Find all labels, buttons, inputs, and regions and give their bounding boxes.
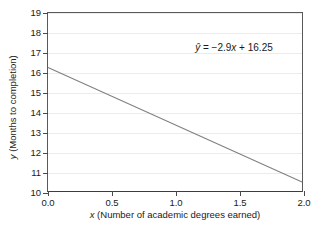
plot-area: 10111213141516171819 0.00.51.01.52.0 ŷ =… — [47, 12, 303, 192]
x-tick-mark — [304, 191, 305, 196]
y-tick-label: 16 — [30, 68, 41, 78]
y-tick-label: 11 — [31, 168, 41, 178]
equation-equals: = −2.9 — [200, 42, 231, 53]
y-axis-title-text: (Months to completion) — [7, 55, 18, 154]
x-tick-label: 0.0 — [41, 198, 54, 208]
y-tick-label: 13 — [30, 128, 41, 138]
x-tick-mark — [48, 191, 49, 196]
x-axis-title: x (Number of academic degrees earned) — [47, 210, 303, 220]
y-tick-label: 15 — [30, 88, 41, 98]
y-tick-label: 14 — [30, 108, 41, 118]
x-tick-mark — [112, 191, 113, 196]
y-tick-label: 19 — [30, 8, 41, 18]
y-axis-title-symbol: y — [7, 154, 18, 159]
y-tick-label: 17 — [30, 48, 41, 58]
y-axis-title: y (Months to completion) — [8, 22, 18, 192]
x-tick-label: 2.0 — [297, 198, 310, 208]
scatter-regression-chart: 10111213141516171819 0.00.51.01.52.0 ŷ =… — [0, 0, 321, 231]
regression-line — [48, 13, 302, 191]
x-tick-mark — [240, 191, 241, 196]
x-tick-mark — [176, 191, 177, 196]
x-tick-label: 1.5 — [233, 198, 246, 208]
regression-equation: ŷ = −2.9x + 16.25 — [195, 43, 273, 53]
x-tick-label: 1.0 — [169, 198, 182, 208]
x-axis-title-text: (Number of academic degrees earned) — [94, 209, 260, 220]
y-tick-label: 12 — [30, 148, 41, 158]
y-tick-label: 18 — [30, 28, 41, 38]
equation-tail: + 16.25 — [236, 42, 272, 53]
y-tick-label: 10 — [30, 188, 41, 198]
regression-line-path — [48, 67, 302, 182]
x-tick-label: 0.5 — [105, 198, 118, 208]
